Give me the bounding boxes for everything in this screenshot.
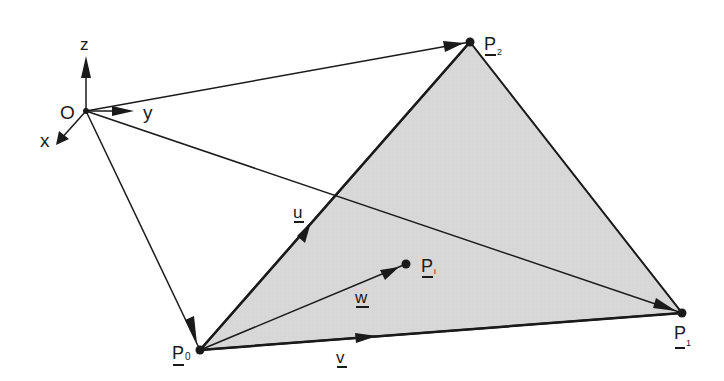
p0-label: P 0 — [172, 343, 191, 365]
svg-text:2: 2 — [497, 47, 502, 57]
axes — [56, 56, 134, 145]
svg-text:P: P — [484, 34, 496, 54]
y-axis-label: y — [143, 102, 153, 123]
y-arrow-icon — [112, 106, 134, 116]
svg-text:0: 0 — [185, 351, 191, 362]
point-p0 — [196, 346, 205, 355]
svg-text:P: P — [172, 343, 184, 363]
u-label: u — [293, 203, 304, 222]
svg-text:v: v — [336, 348, 345, 367]
triangle-face — [200, 42, 682, 350]
triangle-diagram: O z y x P 2 P 0 P 1 P i u w v — [0, 0, 724, 381]
point-p1 — [678, 309, 687, 318]
point-pi — [402, 260, 411, 269]
svg-text:i: i — [434, 267, 436, 276]
point-o — [83, 108, 89, 114]
x-axis-label: x — [40, 130, 50, 151]
arrow-o-p0-icon — [185, 316, 197, 344]
svg-text:u: u — [293, 203, 302, 222]
v-label: v — [336, 348, 347, 367]
w-label: w — [354, 288, 369, 307]
vector-o-p2 — [86, 42, 470, 111]
p1-label: P 1 — [674, 323, 691, 348]
vector-o-p0 — [86, 111, 200, 350]
origin-label: O — [60, 102, 75, 123]
point-p2 — [466, 38, 475, 47]
z-arrow-icon — [81, 56, 91, 78]
svg-text:P: P — [421, 256, 433, 276]
svg-text:P: P — [674, 323, 686, 343]
svg-text:w: w — [354, 288, 368, 307]
arrow-o-p2-icon — [443, 41, 464, 52]
p2-label: P 2 — [484, 34, 502, 57]
svg-text:1: 1 — [686, 338, 691, 348]
z-axis-label: z — [80, 35, 89, 54]
